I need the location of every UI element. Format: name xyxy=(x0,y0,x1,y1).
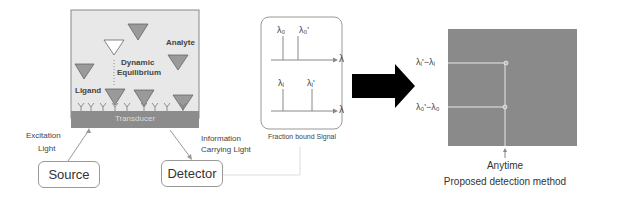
equilibrium-label-1: Dynamic xyxy=(121,58,154,68)
source-box: Source xyxy=(38,161,100,188)
equilibrium-label-2: Equilibrium xyxy=(117,68,161,78)
excitation-label-2: Light xyxy=(38,144,55,154)
detector-box: Detector xyxy=(161,160,223,187)
analyte-label: Analyte xyxy=(166,38,195,48)
spectrum-top-peak1: λ₀ xyxy=(277,25,285,35)
spectrum-bottom-axis: λ xyxy=(339,105,344,115)
excitation-label-1: Excitation xyxy=(26,131,61,141)
spectrum-top-axis: λ xyxy=(339,54,344,64)
transducer-label: Transducer xyxy=(71,114,199,124)
spectrum-bottom-peak2: λᵢ' xyxy=(307,78,315,88)
method-plot-area xyxy=(448,29,577,146)
ligand-label: Ligand xyxy=(75,86,101,96)
time-label: Anytime xyxy=(470,161,540,171)
y-label-bottom: λ₀'−λ₀ xyxy=(416,102,439,112)
spectra-caption: Fraction bound Signal xyxy=(258,132,346,142)
y-label-top: λᵢ'−λᵢ xyxy=(416,57,435,67)
method-caption: Proposed detection method xyxy=(440,177,570,187)
info-label-2: Carrying Light xyxy=(201,145,251,155)
spectrum-bottom-peak1: λᵢ xyxy=(278,78,284,88)
info-label-1: Information xyxy=(201,134,241,144)
spectrum-top-peak2: λ₀' xyxy=(299,25,309,35)
big-arrow-icon xyxy=(352,64,415,108)
